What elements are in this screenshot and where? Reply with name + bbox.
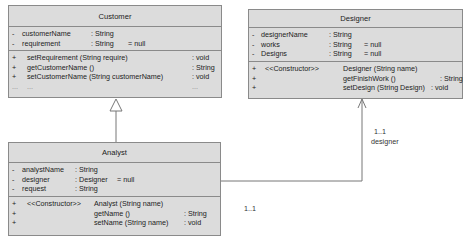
method-return: ...	[192, 82, 198, 92]
inheritance-arrow-icon	[110, 99, 122, 111]
method-return: : String	[440, 74, 463, 84]
attribute-name: Designs	[261, 49, 287, 59]
method-row: + setName (String name) : void	[9, 218, 220, 228]
visibility: +	[12, 209, 16, 219]
visibility: +	[252, 64, 256, 74]
attribute-row: - analystName : String	[9, 165, 220, 175]
attribute-type: : String	[329, 30, 352, 40]
visibility: -	[252, 40, 254, 50]
method-stereotype: <<Constructor>>	[265, 64, 319, 74]
method-signature: setRequirement (String require)	[27, 53, 128, 63]
method-row: + setRequirement (String require) : void	[9, 53, 221, 63]
method-signature: Analyst (String name)	[94, 199, 163, 209]
visibility: +	[252, 83, 256, 93]
attribute-name: designer	[22, 175, 50, 185]
attribute-type: : Designer	[75, 175, 108, 185]
method-stereotype: <<Constructor>>	[27, 199, 81, 209]
method-row: + setCustomerName (String customerName) …	[9, 72, 221, 82]
class-customer[interactable]: Customer - customerName : String - requi…	[8, 5, 222, 98]
visibility: -	[252, 49, 254, 59]
method-signature: getFinishWork ()	[343, 74, 396, 84]
attribute-row: - customerName : String	[9, 29, 221, 39]
methods-section: + setRequirement (String require) : void…	[9, 51, 221, 97]
attribute-type: : String	[91, 29, 114, 39]
attribute-name: designerName	[261, 30, 308, 40]
visibility: ...	[12, 82, 18, 92]
method-return: : String	[184, 209, 207, 219]
class-analyst[interactable]: Analyst - analystName : String - designe…	[8, 142, 221, 236]
visibility: -	[12, 184, 14, 194]
visibility: +	[12, 199, 16, 209]
visibility: +	[12, 72, 16, 82]
method-signature: getName ()	[94, 209, 130, 219]
method-row: + <<Constructor>> Analyst (String name)	[9, 199, 220, 209]
attributes-section: - analystName : String - designer : Desi…	[9, 163, 220, 197]
visibility: -	[12, 165, 14, 175]
method-return: : String	[192, 63, 215, 73]
method-return: : void	[192, 72, 209, 82]
methods-section: + <<Constructor>> Analyst (String name) …	[9, 197, 220, 235]
method-row: + getName () : String	[9, 209, 220, 219]
method-signature: ...	[27, 82, 33, 92]
class-designer[interactable]: Designer - designerName : String - works…	[248, 9, 463, 99]
attribute-name: works	[261, 40, 280, 50]
method-return: : void	[192, 53, 209, 63]
attribute-name: analystName	[22, 165, 64, 175]
visibility: -	[12, 39, 14, 49]
attribute-name: request	[22, 184, 46, 194]
attribute-row: - designerName : String	[249, 30, 462, 40]
visibility: +	[12, 218, 16, 228]
attribute-row: - request : String	[9, 184, 220, 194]
attribute-type: : String	[91, 39, 114, 49]
attribute-default: = null	[128, 39, 145, 49]
attribute-type: : String	[75, 184, 98, 194]
method-return: : void	[431, 83, 448, 93]
attribute-row: - designer : Designer = null	[9, 175, 220, 185]
association-line	[220, 99, 362, 181]
class-name: Designer	[249, 10, 462, 28]
method-row-ellipsis: ... ... ...	[9, 82, 221, 92]
association-source-multiplicity: 1..1	[244, 204, 256, 213]
method-row: + setDesign (String Design) : void	[249, 83, 462, 93]
attribute-default: = null	[117, 175, 134, 185]
association-target-multiplicity: 1..1	[374, 127, 386, 136]
attribute-row: - requirement : String = null	[9, 39, 221, 49]
visibility: +	[12, 53, 16, 63]
visibility: -	[12, 29, 14, 39]
attribute-default: = null	[364, 40, 381, 50]
method-signature: setCustomerName (String customerName)	[27, 72, 163, 82]
attribute-type: : String	[329, 40, 352, 50]
class-name: Customer	[9, 6, 221, 27]
method-signature: getCustomerName ()	[27, 63, 94, 73]
association-target-role: designer	[371, 137, 399, 146]
visibility: -	[12, 175, 14, 185]
class-name: Analyst	[9, 143, 220, 163]
attribute-name: requirement	[22, 39, 60, 49]
visibility: +	[12, 63, 16, 73]
attribute-row: - Designs : String = null	[249, 49, 462, 59]
attributes-section: - customerName : String - requirement : …	[9, 27, 221, 51]
attribute-type: : String	[75, 165, 98, 175]
method-row: + getCustomerName () : String	[9, 63, 221, 73]
methods-section: + <<Constructor>> Designer (String name)…	[249, 62, 462, 98]
method-row: + getFinishWork () : String	[249, 74, 462, 84]
method-return: : void	[184, 218, 201, 228]
attributes-section: - designerName : String - works : String…	[249, 28, 462, 62]
method-signature: setDesign (String Design)	[343, 83, 425, 93]
visibility: +	[252, 74, 256, 84]
method-row: + <<Constructor>> Designer (String name)	[249, 64, 462, 74]
attribute-type: : String	[329, 49, 352, 59]
method-signature: setName (String name)	[94, 218, 168, 228]
attribute-default: = null	[364, 49, 381, 59]
method-signature: Designer (String name)	[343, 64, 417, 74]
attribute-row: - works : String = null	[249, 40, 462, 50]
visibility: -	[252, 30, 254, 40]
attribute-name: customerName	[22, 29, 71, 39]
